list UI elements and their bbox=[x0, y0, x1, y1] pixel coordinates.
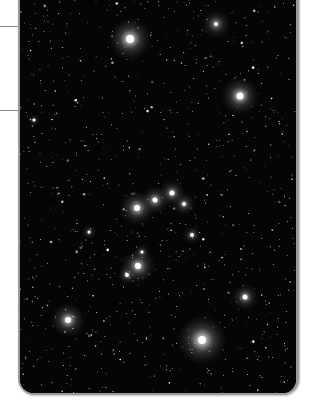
star-field-photo bbox=[20, 0, 296, 393]
galaxy-core bbox=[134, 205, 140, 211]
galaxy-core bbox=[237, 93, 244, 100]
divider-line-bottom bbox=[0, 110, 20, 111]
galaxy-core bbox=[33, 119, 36, 122]
galaxy-core bbox=[214, 22, 218, 26]
galaxy-core bbox=[65, 317, 71, 323]
galaxy-core bbox=[125, 273, 129, 277]
galaxy-cluster-image-card[interactable]: Deep-sky photograph of a galaxy cluster … bbox=[18, 0, 299, 395]
divider-line-top bbox=[0, 26, 20, 27]
galaxy-core bbox=[126, 35, 134, 43]
galaxy-core bbox=[182, 202, 186, 206]
galaxy-core bbox=[170, 191, 175, 196]
galaxy-core bbox=[88, 231, 91, 234]
galaxy-core bbox=[243, 295, 248, 300]
galaxy-core bbox=[153, 198, 158, 203]
galaxy-core bbox=[141, 251, 144, 254]
galaxy-core bbox=[198, 336, 206, 344]
galaxy-core bbox=[190, 233, 194, 237]
galaxy-core bbox=[135, 263, 141, 269]
page: Deep-sky photograph of a galaxy cluster … bbox=[0, 0, 311, 403]
